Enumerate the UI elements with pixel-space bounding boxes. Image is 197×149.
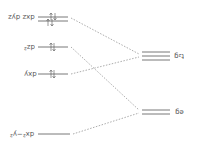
level-eg: [142, 110, 170, 114]
label-eg: eg: [175, 108, 184, 116]
level-t2g: [142, 52, 170, 60]
label-dz2: dz²: [24, 43, 35, 51]
correlation-lines: [71, 18, 139, 134]
level-dxz-dyz: [38, 17, 68, 21]
label-t2g: t₂g: [174, 52, 184, 60]
electrons-dxz-dyz: [47, 13, 57, 26]
label-dxz-dyz: dxz dyz: [8, 13, 35, 21]
label-dx2-y2: dx²−y²: [10, 130, 34, 138]
label-dxy: dxy: [24, 70, 37, 78]
